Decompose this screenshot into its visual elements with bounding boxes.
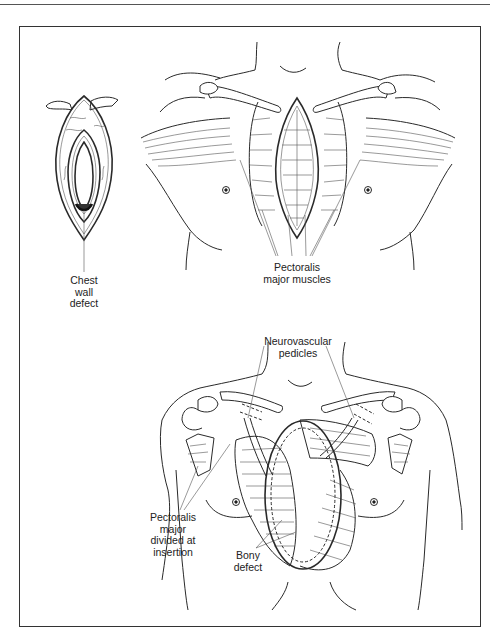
label-line: pedicles bbox=[258, 348, 338, 360]
label-line: divided at bbox=[138, 535, 208, 547]
label-line: Pectoralis bbox=[252, 262, 342, 274]
label-line: Neurovascular bbox=[258, 336, 338, 348]
label-line: insertion bbox=[138, 547, 208, 559]
label-line: Chest bbox=[64, 275, 104, 287]
label-chest-wall-defect: Chest wall defect bbox=[64, 275, 104, 310]
label-line: defect bbox=[64, 298, 104, 310]
torso-top-drawing bbox=[141, 42, 455, 270]
label-line: defect bbox=[228, 562, 268, 574]
label-line: major muscles bbox=[252, 274, 342, 286]
label-line: Pectoralis bbox=[138, 512, 208, 524]
label-line: Bony bbox=[228, 550, 268, 562]
label-bony-defect: Bony defect bbox=[228, 550, 268, 573]
surgical-illustration bbox=[0, 0, 501, 643]
label-pectoralis-major-muscles: Pectoralis major muscles bbox=[252, 262, 342, 285]
label-pectoralis-major-divided: Pectoralis major divided at insertion bbox=[138, 512, 208, 558]
chest-wall-defect-drawing bbox=[46, 96, 118, 272]
label-neurovascular-pedicles: Neurovascular pedicles bbox=[258, 336, 338, 359]
torso-bottom-drawing bbox=[160, 342, 462, 610]
